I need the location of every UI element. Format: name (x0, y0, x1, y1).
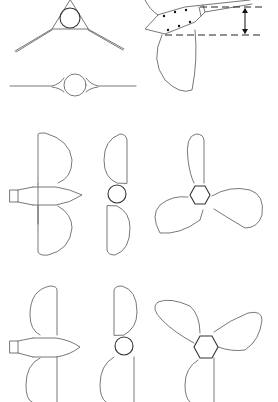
two-blade-section (10, 74, 136, 96)
three-blade-front-view-b (155, 300, 262, 402)
blade-root-detail (145, 0, 262, 91)
propeller-drawing-canvas (0, 0, 278, 402)
two-blade-front-view-b (100, 286, 137, 402)
three-blade-section (15, 0, 124, 52)
two-blade-side-view-a (10, 133, 82, 255)
three-blade-front-view-a (155, 134, 263, 233)
two-blade-front-view-a (104, 134, 130, 255)
two-blade-side-view-b (10, 286, 80, 402)
